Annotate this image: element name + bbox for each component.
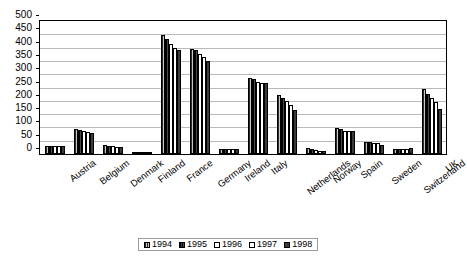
bar bbox=[438, 109, 442, 154]
bar-group bbox=[417, 21, 446, 154]
y-axis-tick-label: 100 bbox=[15, 116, 32, 126]
legend-label: 1998 bbox=[292, 240, 312, 249]
bar-group bbox=[185, 21, 214, 154]
bar bbox=[380, 145, 384, 154]
bar bbox=[119, 147, 123, 154]
legend-item: 1998 bbox=[284, 240, 312, 249]
y-axis-tick-label: 500 bbox=[15, 10, 32, 20]
bar bbox=[61, 146, 65, 154]
y-axis-tick-label: 400 bbox=[15, 37, 32, 47]
bar bbox=[351, 131, 355, 154]
bar bbox=[177, 50, 181, 154]
y-axis-tick-label: 150 bbox=[15, 103, 32, 113]
bar-group bbox=[98, 21, 127, 154]
legend-swatch-icon bbox=[249, 242, 255, 248]
x-axis-tick-label: Sweden bbox=[390, 158, 423, 187]
x-axis-tick-label: Austria bbox=[68, 158, 98, 184]
y-axis-tick-label: 350 bbox=[15, 50, 32, 60]
bar bbox=[409, 148, 413, 154]
y-axis-tick-label: 300 bbox=[15, 63, 32, 73]
bar-group bbox=[69, 21, 98, 154]
y-axis-tick-mark bbox=[36, 15, 39, 16]
legend-swatch-icon bbox=[214, 242, 220, 248]
chart-legend: 19941995199619971998 bbox=[138, 238, 318, 251]
y-axis-tick-label: 200 bbox=[15, 90, 32, 100]
bar-group bbox=[272, 21, 301, 154]
legend-item: 1995 bbox=[179, 240, 207, 249]
bar-group bbox=[156, 21, 185, 154]
bar-group bbox=[214, 21, 243, 154]
y-axis-tick-label: 50 bbox=[21, 130, 32, 140]
legend-label: 1996 bbox=[222, 240, 242, 249]
bar-group bbox=[301, 21, 330, 154]
y-axis-tick-label: 450 bbox=[15, 23, 32, 33]
bar-group bbox=[40, 21, 69, 154]
legend-label: 1995 bbox=[187, 240, 207, 249]
x-axis-tick-label: France bbox=[185, 158, 215, 184]
x-axis: AustriaBelgiumDenmarkFinlandFranceGerman… bbox=[39, 156, 447, 216]
legend-swatch-icon bbox=[179, 242, 185, 248]
bar-group bbox=[388, 21, 417, 154]
x-axis-tick-label: Spain bbox=[359, 158, 384, 181]
bar bbox=[90, 133, 94, 154]
bar-group bbox=[127, 21, 156, 154]
bar-group bbox=[243, 21, 272, 154]
plot-area bbox=[40, 21, 446, 154]
x-axis-tick-label: Belgium bbox=[98, 158, 131, 187]
y-axis-tick-label: 250 bbox=[15, 77, 32, 87]
bar bbox=[264, 83, 268, 154]
bar-group bbox=[359, 21, 388, 154]
bar-groups bbox=[40, 21, 446, 154]
legend-item: 1994 bbox=[144, 240, 172, 249]
bar-group bbox=[330, 21, 359, 154]
y-axis-tick-label: 0 bbox=[26, 143, 32, 153]
bar bbox=[235, 149, 239, 154]
bar bbox=[322, 151, 326, 154]
legend-swatch-icon bbox=[144, 242, 150, 248]
legend-label: 1994 bbox=[152, 240, 172, 249]
y-axis: 500450400350300250200150100500 bbox=[0, 14, 36, 161]
x-axis-tick-label: Italy bbox=[270, 158, 290, 176]
bar bbox=[148, 152, 152, 154]
legend-swatch-icon bbox=[284, 242, 290, 248]
legend-label: 1997 bbox=[257, 240, 277, 249]
legend-item: 1997 bbox=[249, 240, 277, 249]
plot-frame bbox=[39, 20, 447, 155]
bar bbox=[293, 110, 297, 154]
bar bbox=[206, 61, 210, 154]
legend-item: 1996 bbox=[214, 240, 242, 249]
